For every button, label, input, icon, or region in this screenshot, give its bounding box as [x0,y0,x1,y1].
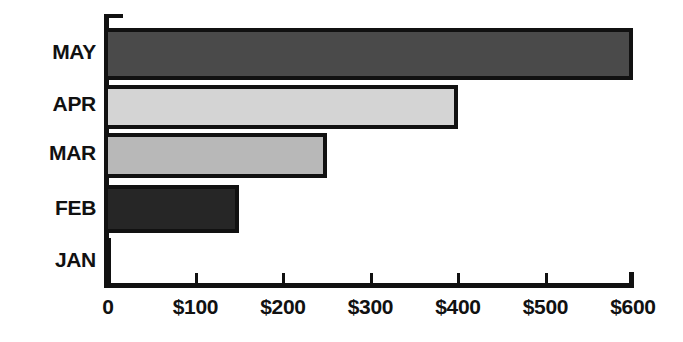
x-tick-label-300: $300 [348,296,394,317]
plot-area: 0$100$200$300$400$500$600 [0,0,683,342]
y-axis-top-cap [104,14,123,18]
x-tick-200 [282,273,285,284]
bar-apr [104,85,458,129]
x-tick-label-400: $400 [435,296,481,317]
x-tick-500 [545,273,548,284]
x-tick-label-100: $100 [173,296,219,317]
x-tick-300 [370,273,373,284]
bar-feb [104,185,239,233]
x-tick-label-500: $500 [523,296,569,317]
x-tick-label-200: $200 [260,296,306,317]
x-tick-100 [195,273,198,284]
bar-mar [104,133,327,178]
x-tick-400 [457,273,460,284]
x-tick-label-0: 0 [102,296,113,317]
x-axis-right-cap [629,272,634,288]
bar-may [104,28,633,80]
bar-chart: MAYAPRMARFEBJAN 0$100$200$300$400$500$60… [0,0,683,342]
x-tick-label-600: $600 [610,296,656,317]
bar-jan [105,238,111,283]
